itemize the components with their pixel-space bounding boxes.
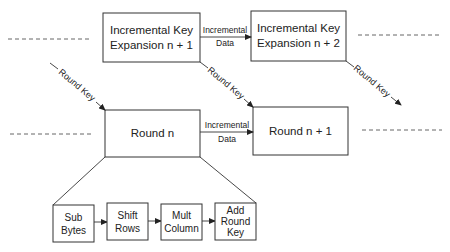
round-key-label-right: Round Key (352, 63, 393, 100)
round-key-arrow-right: Round Key (346, 61, 401, 105)
key-expansion-n-plus-2-line-2: Expansion n + 2 (257, 37, 340, 49)
key-expansion-n-plus-1-line-2: Expansion n + 1 (110, 39, 193, 51)
add-round-key-line-3: Key (227, 227, 244, 238)
round-n-plus-1-box: Round n + 1 (253, 107, 348, 155)
round-detail-connector-right (200, 157, 256, 203)
mult-column-box: Mult Column (161, 204, 202, 240)
round-n-plus-1-label: Round n + 1 (269, 125, 332, 137)
round-key-label-middle: Round Key (206, 65, 247, 102)
round-n-box: Round n (105, 110, 200, 157)
mult-column-line-1: Mult (172, 210, 191, 221)
sub-bytes-line-1: Sub (65, 212, 83, 223)
sub-bytes-box: Sub Bytes (53, 205, 94, 242)
key-expansion-n-plus-2-box: Incremental Key Expansion n + 2 (251, 11, 346, 61)
key-expansion-n-plus-1-line-1: Incremental Key (110, 24, 193, 36)
incremental-data-top-label-2: Data (216, 38, 234, 48)
key-expansion-n-plus-1-box: Incremental Key Expansion n + 1 (103, 13, 200, 62)
round-key-label-left: Round Key (57, 67, 98, 104)
mult-column-line-2: Column (164, 223, 198, 234)
sub-bytes-line-2: Bytes (61, 225, 86, 236)
incremental-data-bottom-label-1: Incremental (205, 120, 250, 130)
shift-rows-line-1: Shift (117, 210, 137, 221)
incremental-data-bottom-label-2: Data (218, 134, 236, 144)
add-round-key-box: Add Round Key (215, 203, 256, 240)
shift-rows-line-2: Rows (115, 223, 140, 234)
round-detail-connector-left (53, 157, 105, 205)
shift-rows-box: Shift Rows (107, 203, 148, 240)
round-n-label: Round n (131, 127, 174, 139)
incremental-data-top-label-1: Incremental (203, 25, 248, 35)
add-round-key-line-2: Round (221, 216, 250, 227)
key-expansion-n-plus-2-line-1: Incremental Key (257, 22, 340, 34)
round-key-arrow-middle: Round Key (200, 62, 253, 107)
add-round-key-line-1: Add (227, 205, 245, 216)
round-key-arrow-left: Round Key (50, 63, 105, 110)
aes-pipeline-diagram: Incremental Key Expansion n + 1 Incremen… (0, 0, 450, 252)
